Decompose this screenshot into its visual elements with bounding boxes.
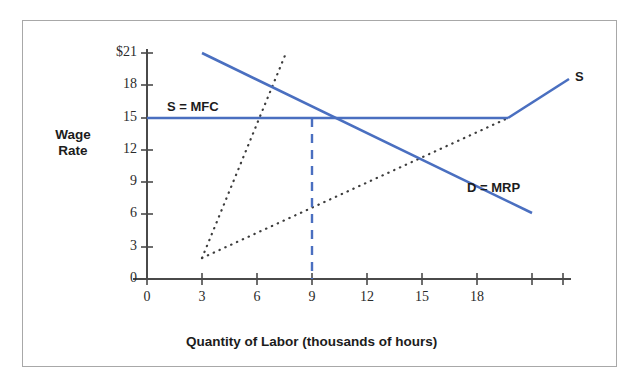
curve-label-s-mfc: S = MFC (167, 99, 219, 114)
y-tick-label-3: 3 (95, 238, 137, 254)
x-tick-label-18: 18 (457, 289, 497, 305)
x-tick-label-12: 12 (347, 289, 387, 305)
economics-chart-plot (23, 21, 618, 368)
y-tick-label-0: 0 (95, 270, 137, 286)
y-tick-label-21: $21 (95, 44, 137, 60)
labor-supply-dotted-curve (202, 118, 508, 258)
y-axis-title-line-2: Rate (33, 143, 113, 159)
curve-label-d-mrp: D = MRP (467, 180, 520, 195)
x-tick-label-15: 15 (402, 289, 442, 305)
curve-label-s: S (575, 69, 584, 84)
marginal-factor-cost-dotted-curve (202, 53, 286, 258)
y-tick-label-9: 9 (95, 173, 137, 189)
supply-curve-upper-segment (508, 79, 569, 118)
x-axis-title: Quantity of Labor (thousands of hours) (186, 334, 437, 349)
x-tick-label-9: 9 (292, 289, 332, 305)
y-tick-label-15: 15 (95, 109, 137, 125)
x-tick-label-3: 3 (182, 289, 222, 305)
y-tick-label-6: 6 (95, 205, 137, 221)
y-axis-title-line-1: Wage (33, 127, 113, 143)
y-tick-label-18: 18 (95, 76, 137, 92)
figure-frame: $21 18 15 12 9 6 3 0 0 3 6 9 12 15 18 Wa… (22, 20, 617, 367)
y-axis-title: Wage Rate (33, 127, 113, 160)
x-tick-label-6: 6 (237, 289, 277, 305)
x-tick-label-0: 0 (127, 289, 167, 305)
